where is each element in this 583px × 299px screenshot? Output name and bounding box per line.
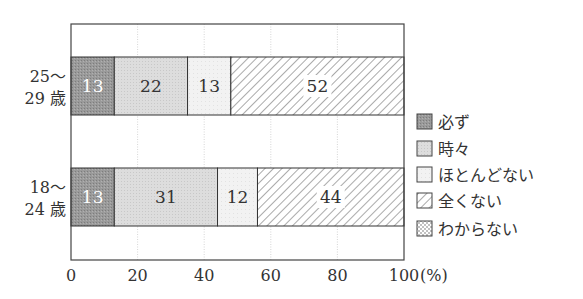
legend-item: 必ず [417,113,470,132]
x-tick-label: 100 [389,266,420,285]
category-label: 24 歳 [25,200,66,219]
legend-swatch [417,221,432,236]
bar-value-label: 44 [320,187,342,207]
legend-swatch [417,141,432,156]
legend-swatch [417,114,432,129]
bar-value-label: 12 [227,187,249,207]
legend-item: 時々 [417,140,470,159]
legend-label: 時々 [438,140,470,159]
legend-label: わからない [438,220,518,239]
bars: 1322135213311244 [71,57,404,226]
legend-swatch [417,193,432,208]
x-axis-ticks: 020406080100(%) [66,266,448,285]
legend-label: 全くない [438,192,502,211]
legend-item: 全くない [417,192,502,211]
bar-value-label: 31 [155,187,177,207]
bar-group: 13221352 [71,57,404,115]
legend-label: 必ず [438,113,470,132]
category-label: 29 歳 [25,89,66,108]
stacked-bar-chart: 1322135213311244 25〜29 歳18〜24 歳 02040608… [0,0,583,299]
x-tick-label: 40 [194,266,214,285]
legend-swatch [417,167,432,182]
legend: 必ず時々ほとんどない全くないわからない [417,113,534,239]
bar-value-label: 22 [140,76,162,96]
bar-value-label: 52 [307,76,329,96]
x-tick-label: 60 [261,266,281,285]
category-label: 18〜 [30,178,66,197]
x-tick-label: 0 [66,266,76,285]
x-tick-label: 20 [127,266,147,285]
bar-group: 13311244 [71,168,404,226]
x-axis-unit: (%) [420,266,448,285]
bar-value-label: 13 [82,76,104,96]
category-label: 25〜 [30,67,66,86]
bar-value-label: 13 [198,76,220,96]
legend-label: ほとんどない [438,166,534,185]
bar-value-label: 13 [82,187,104,207]
category-labels: 25〜29 歳18〜24 歳 [25,67,66,219]
legend-item: ほとんどない [417,166,534,185]
legend-item: わからない [417,220,518,239]
x-tick-label: 80 [327,266,347,285]
